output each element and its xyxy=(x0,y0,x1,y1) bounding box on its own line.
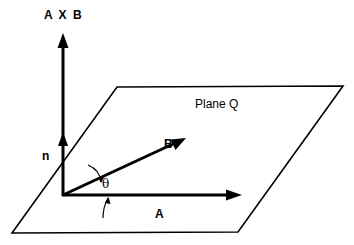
vector-b-label: B xyxy=(164,138,173,150)
vector-a-arrowhead-icon xyxy=(226,190,242,201)
normal-n-label: n xyxy=(42,150,49,162)
plane-q-label: Plane Q xyxy=(195,98,238,110)
vector-b-line xyxy=(63,144,174,196)
cross-product-label: A X B xyxy=(44,9,83,21)
vector-a-label: A xyxy=(155,208,164,220)
normal-n-arrowhead-icon xyxy=(58,132,68,146)
angle-theta-label: θ xyxy=(102,178,109,190)
axb-arrowhead-icon xyxy=(58,33,69,48)
diagram-svg xyxy=(0,0,354,245)
diagram-canvas: A X B Plane Q n B θ A xyxy=(0,0,354,245)
